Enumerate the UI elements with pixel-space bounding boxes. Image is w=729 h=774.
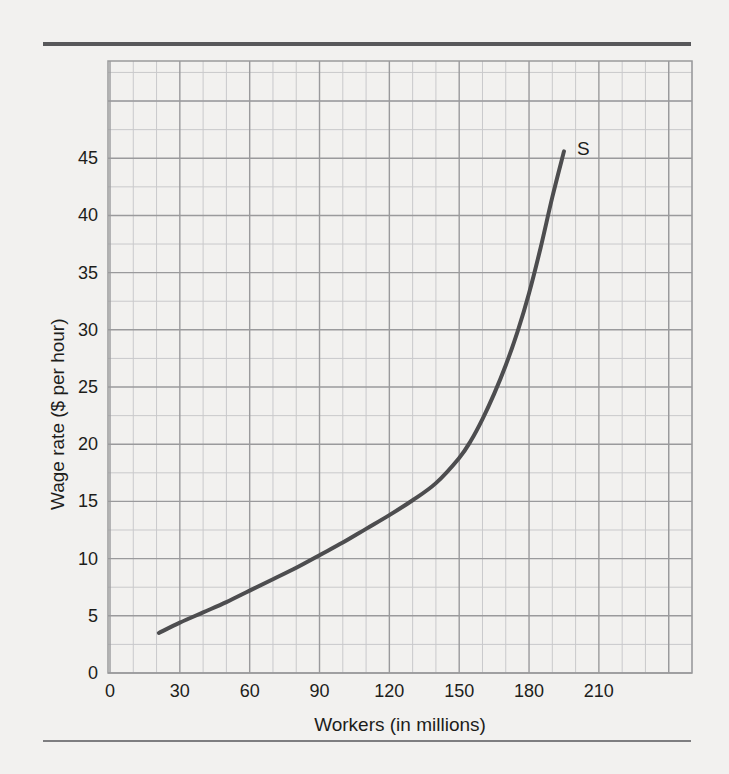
x-axis-title: Workers (in millions) xyxy=(314,714,486,736)
y-tick-label: 45 xyxy=(60,148,98,169)
x-tick-label: 60 xyxy=(240,681,260,702)
x-tick-label: 90 xyxy=(310,681,330,702)
minor-gridlines xyxy=(108,61,692,673)
supply-curve-line xyxy=(159,151,564,633)
x-tick-label: 150 xyxy=(444,681,474,702)
y-tick-label: 10 xyxy=(60,548,98,569)
y-tick-label: 35 xyxy=(60,262,98,283)
x-tick-label: 120 xyxy=(374,681,404,702)
y-tick-label: 40 xyxy=(60,205,98,226)
y-axis-title: Wage rate ($ per hour) xyxy=(47,319,69,511)
y-tick-label: 5 xyxy=(60,605,98,626)
x-tick-label: 0 xyxy=(105,681,115,702)
figure-container: 051015202530354045 0306090120150180210 W… xyxy=(0,0,729,774)
plot-area-wrapper: 051015202530354045 0306090120150180210 W… xyxy=(0,0,729,774)
supply-curve-label: S xyxy=(577,138,590,160)
plot-border xyxy=(108,61,692,673)
major-gridlines xyxy=(108,61,692,673)
x-tick-label: 30 xyxy=(170,681,190,702)
supply-curve-chart xyxy=(0,0,729,774)
x-tick-label: 210 xyxy=(584,681,614,702)
y-tick-label: 0 xyxy=(60,663,98,684)
x-tick-label: 180 xyxy=(514,681,544,702)
